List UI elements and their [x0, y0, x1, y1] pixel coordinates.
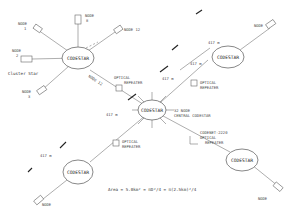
svg-text:NODE: NODE [42, 202, 52, 207]
node-bottom-right: NODE [258, 182, 283, 201]
node-12-line-label: NODE 12 [87, 74, 103, 87]
node-12: NODE 12 [114, 25, 140, 34]
svg-text:1: 1 [24, 26, 27, 31]
cluster-star-label: Cluster Star [8, 71, 39, 76]
distance-label-2: 417 m [162, 76, 174, 81]
node-8: NODE 8 [75, 13, 95, 24]
svg-text:NODE: NODE [18, 21, 28, 26]
central-label-2: CENTRAL CODESTAR [174, 113, 211, 118]
network-diagram: CODESTAR CODESTAR CODESTAR CODESTAR CODE… [0, 0, 296, 217]
hub-top-right: CODESTAR [212, 46, 244, 68]
svg-text:REPEATER: REPEATER [205, 140, 224, 145]
svg-text:REPEATER: REPEATER [200, 85, 219, 90]
node-1: NODE 1 [18, 21, 42, 33]
distance-label-3: 417 m [190, 61, 202, 66]
hub-bottom-left: CODESTAR [63, 160, 93, 184]
svg-text:CODESTAR: CODESTAR [231, 158, 253, 163]
svg-text:CODESTAR: CODESTAR [67, 56, 89, 61]
repeater-bottom-left: OPTICAL REPEATER [113, 139, 141, 149]
node-2: NODE 2 [12, 48, 32, 62]
svg-text:REPEATER: REPEATER [122, 144, 141, 149]
svg-text:CODESTAR: CODESTAR [141, 108, 163, 113]
svg-text:2: 2 [16, 53, 18, 58]
node-top-right: NODE [254, 19, 276, 28]
svg-text:8: 8 [86, 18, 89, 23]
area-formula: Area = 5.0km² = πD²/4 = π(2.5km)²/4 [108, 187, 197, 192]
node-3: NODE 3 [22, 85, 47, 99]
distance-markers [28, 10, 202, 172]
repeater-bottom-right: CODENET-2220 OPTICAL REPEATER [190, 130, 228, 145]
svg-text:NODE: NODE [254, 23, 264, 28]
repeater-top-right: OPTICAL REPEATER [191, 80, 219, 90]
repeater-left: OPTICAL REPEATER [114, 75, 143, 91]
svg-text:CODESTAR: CODESTAR [67, 170, 89, 175]
distance-label-1: 417 m [208, 40, 220, 45]
distance-label-5: 417 m [40, 153, 52, 158]
svg-text:CODESTAR: CODESTAR [217, 55, 239, 60]
hub-central: CODESTAR [138, 100, 166, 120]
hub-top-left: CODESTAR [62, 47, 94, 69]
svg-text:NODE 12: NODE 12 [124, 27, 140, 32]
node-bottom-left: NODE [34, 195, 52, 207]
svg-text:REPEATER: REPEATER [124, 80, 143, 85]
hub-bottom-right: CODESTAR [226, 149, 258, 171]
svg-text:NODE: NODE [22, 89, 32, 94]
svg-text:3: 3 [28, 94, 30, 99]
svg-text:NODE: NODE [258, 196, 268, 201]
distance-label-4: 417 m [106, 112, 118, 117]
